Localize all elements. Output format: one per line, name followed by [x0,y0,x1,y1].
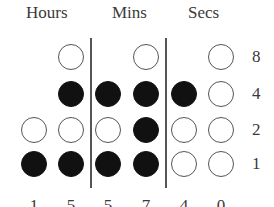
bit-hours-col1-2-off [21,117,47,143]
digit-hours-tens: 1 [24,196,44,207]
bit-mins-col4-4-on [133,81,159,107]
bit-label-4: 4 [252,84,261,104]
bit-hours-col2-2-off [58,117,84,143]
bit-mins-col3-1-on [95,151,121,177]
bit-secs-col6-1-off [208,151,234,177]
digit-hours-ones: 5 [61,196,81,207]
bit-mins-col4-2-on [133,117,159,143]
digit-secs-ones: 0 [211,196,231,207]
bit-secs-col6-4-off [208,81,234,107]
header-mins: Mins [112,3,147,23]
bit-secs-col5-2-off [171,117,197,143]
divider-mins-secs [165,38,167,188]
header-secs: Secs [188,3,219,23]
bit-secs-col5-4-on [171,81,197,107]
bit-mins-col4-8-off [133,44,159,70]
digit-secs-tens: 4 [174,196,194,207]
bit-label-8: 8 [252,47,261,67]
bit-mins-col3-4-on [95,81,121,107]
bit-secs-col6-8-off [208,44,234,70]
bit-label-2: 2 [252,120,261,140]
bit-label-1: 1 [252,154,261,174]
bit-hours-col1-1-on [21,151,47,177]
digit-mins-ones: 7 [136,196,156,207]
bit-hours-col2-8-off [58,44,84,70]
bit-mins-col4-1-on [133,151,159,177]
divider-hours-mins [90,38,92,188]
bit-mins-col3-2-off [95,117,121,143]
header-hours: Hours [26,3,68,23]
bit-hours-col2-1-on [58,151,84,177]
digit-mins-tens: 5 [98,196,118,207]
bit-secs-col5-1-off [171,151,197,177]
bit-secs-col6-2-off [208,117,234,143]
bit-hours-col2-4-on [58,81,84,107]
